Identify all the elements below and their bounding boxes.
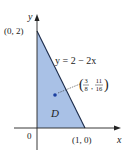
svg-text:3: 3 bbox=[84, 77, 87, 84]
x-axis-label: x bbox=[116, 134, 122, 145]
y-axis-arrow-icon bbox=[35, 14, 40, 21]
svg-text:11: 11 bbox=[96, 77, 102, 84]
svg-text:): ) bbox=[104, 77, 109, 93]
svg-text:8: 8 bbox=[84, 85, 87, 92]
point-top-label: (0, 2) bbox=[4, 26, 24, 36]
centroid-label: ( 3 8 , 11 16 ) bbox=[79, 77, 109, 93]
region-diagram: y x 0 (0, 2) (1, 0) y = 2 − 2x D ( 3 8 ,… bbox=[0, 0, 130, 156]
region-label: D bbox=[50, 107, 59, 119]
line-equation-label: y = 2 − 2x bbox=[55, 55, 96, 66]
point-right-label: (1, 0) bbox=[72, 135, 92, 145]
svg-text:,: , bbox=[91, 82, 93, 91]
svg-text:16: 16 bbox=[96, 85, 103, 92]
origin-label: 0 bbox=[27, 131, 32, 141]
y-axis-label: y bbox=[27, 11, 33, 22]
centroid-point bbox=[53, 93, 57, 97]
x-axis-arrow-icon bbox=[114, 126, 121, 131]
